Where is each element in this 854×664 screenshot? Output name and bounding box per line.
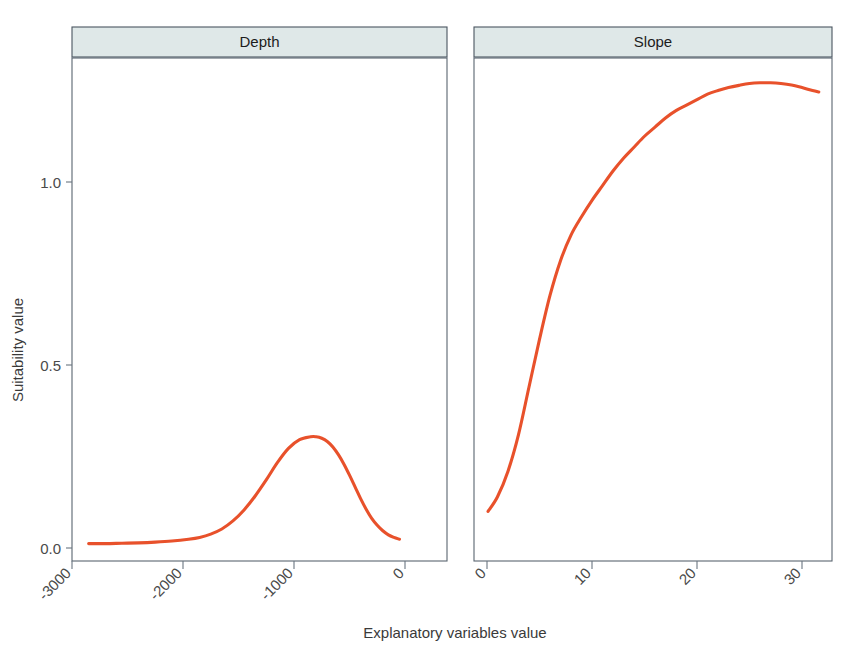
y-axis-ticks-depth: 1.0 0.5 0.0 xyxy=(40,174,72,557)
x-tick-label-slope-1: 0 xyxy=(471,564,489,582)
x-tick-label-depth-4: 0 xyxy=(389,564,407,582)
x-tick-label-depth-1: -3000 xyxy=(35,564,74,603)
y-tick-label-0.0: 0.0 xyxy=(40,540,61,557)
panel-area-slope xyxy=(474,58,832,561)
x-tick-label-slope-3: 20 xyxy=(675,564,699,588)
x-axis-title: Explanatory variables value xyxy=(363,624,546,641)
x-axis-ticks-depth: -3000 -2000 -1000 0 xyxy=(35,561,407,603)
panel-depth: Depth 1.0 0.5 0.0 -3000 -2000 -1000 xyxy=(35,27,447,603)
x-tick-label-depth-3: -1000 xyxy=(257,564,296,603)
y-axis-title: Suitability value xyxy=(9,298,26,402)
panel-area-depth xyxy=(72,58,447,561)
strip-label-depth: Depth xyxy=(239,33,279,50)
y-tick-label-1.0: 1.0 xyxy=(40,174,61,191)
chart-figure: Depth 1.0 0.5 0.0 -3000 -2000 -1000 xyxy=(0,0,854,664)
trellis-plot-svg: Depth 1.0 0.5 0.0 -3000 -2000 -1000 xyxy=(0,0,854,664)
x-axis-ticks-slope: 0 10 20 30 xyxy=(471,561,804,588)
panel-slope: Slope 0 10 20 30 xyxy=(471,27,832,588)
x-tick-label-slope-4: 30 xyxy=(780,564,804,588)
x-tick-label-depth-2: -2000 xyxy=(146,564,185,603)
strip-label-slope: Slope xyxy=(634,33,672,50)
y-tick-label-0.5: 0.5 xyxy=(40,357,61,374)
x-tick-label-slope-2: 10 xyxy=(570,564,594,588)
